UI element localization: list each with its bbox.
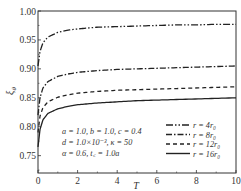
legend-item-label: r = 8r₀ — [193, 131, 216, 140]
x-tick-label: 10 — [231, 176, 241, 186]
y-tick-label: 0.75 — [19, 151, 36, 161]
annotation-line-3: α = 0.6, t꜀ = 1.0a — [62, 149, 119, 158]
y-tick-label: 0.80 — [19, 122, 36, 132]
x-tick-label: 8 — [194, 176, 199, 186]
annotation-line-1: a = 1.0, b = 1.0, c = 0.4 — [62, 127, 142, 136]
legend: r = 4r₀r = 8r₀r = 12r₀r = 16r₀ — [166, 121, 220, 159]
legend-item-label: r = 4r₀ — [193, 121, 216, 130]
svg-text:ξθ: ξθ — [4, 87, 18, 95]
y-tick-label: 1.00 — [19, 7, 36, 17]
y-axis-label: ξθ — [4, 87, 18, 95]
parameter-annotation: a = 1.0, b = 1.0, c = 0.4 d = 1.0×10⁻³, … — [62, 127, 142, 158]
line-chart: 02468100.750.800.850.900.951.00 a = 1.0,… — [0, 0, 241, 191]
x-tick-label: 2 — [75, 176, 80, 186]
series-line-dash-dot-dot — [38, 24, 236, 66]
y-tick-label: 0.95 — [19, 35, 36, 45]
x-tick-label: 0 — [36, 176, 41, 186]
x-axis-label: T — [133, 180, 140, 191]
y-tick-label: 0.90 — [19, 64, 36, 74]
annotation-line-2: d = 1.0×10⁻³, κ = 50 — [62, 138, 132, 147]
legend-item-label: r = 16r₀ — [193, 150, 220, 159]
x-tick-label: 6 — [154, 176, 159, 186]
legend-item-label: r = 12r₀ — [193, 140, 220, 149]
axis-ticks: 02468100.750.800.850.900.951.00 — [19, 7, 241, 187]
series-line-dash-dot — [38, 66, 236, 115]
y-tick-label: 0.85 — [19, 93, 36, 103]
x-tick-label: 4 — [115, 176, 120, 186]
y-axis-label-sub: θ — [10, 87, 18, 91]
